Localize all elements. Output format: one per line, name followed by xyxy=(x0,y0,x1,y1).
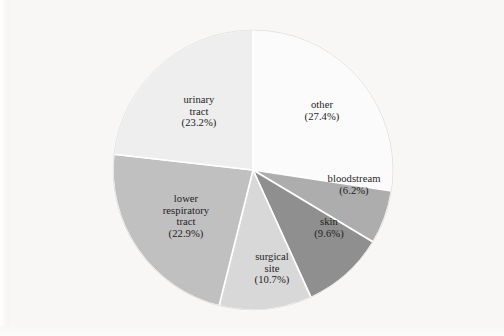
pie-chart-svg xyxy=(0,0,504,336)
pie-slice-other[interactable] xyxy=(253,30,393,191)
pie-slice-urinary-tract[interactable] xyxy=(114,30,253,170)
figure-page: other(27.4%)bloodstream(6.2%)skin(9.6%)s… xyxy=(0,0,504,336)
pie-slice-group xyxy=(113,30,393,310)
pie-chart: other(27.4%)bloodstream(6.2%)skin(9.6%)s… xyxy=(0,0,504,336)
